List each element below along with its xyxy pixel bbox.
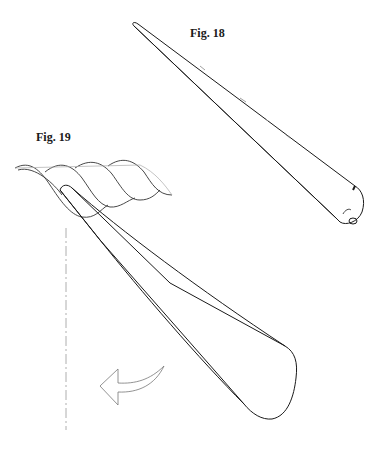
rotation-arrow-icon [100, 366, 164, 405]
figure-19-tool-drawing [60, 185, 297, 419]
illustration-canvas [0, 0, 391, 453]
figure-18-tool-drawing [133, 23, 364, 224]
